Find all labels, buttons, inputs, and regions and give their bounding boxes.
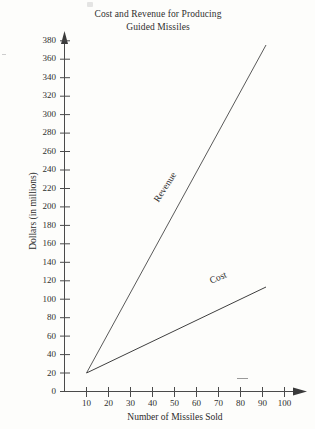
x-tick-label: 20 — [97, 398, 121, 408]
y-tick-label: 80 — [28, 312, 56, 322]
x-tick-label: 40 — [141, 398, 165, 408]
y-tick-label: 20 — [28, 368, 56, 378]
x-axis-title: Number of Missiles Sold — [60, 412, 290, 422]
x-axis-arrowhead — [293, 388, 307, 396]
y-tick-label: 0 — [28, 386, 56, 396]
y-tick-label: 320 — [28, 90, 56, 100]
x-tick-label: 100 — [273, 398, 297, 408]
series-line-cost — [87, 287, 267, 373]
y-axis-arrowhead — [61, 31, 68, 44]
y-tick-label: 380 — [28, 35, 56, 45]
y-tick-label: 100 — [28, 294, 56, 304]
y-tick-label: 300 — [28, 109, 56, 119]
scan-artifact-dash — [237, 378, 248, 379]
x-tick-label: 50 — [163, 398, 187, 408]
x-tick-label: 90 — [251, 398, 275, 408]
y-axis-title: Dollars (in millions) — [28, 131, 38, 291]
plot-area — [0, 0, 315, 429]
series-line-revenue — [87, 45, 267, 373]
y-tick-label: 360 — [28, 53, 56, 63]
x-tick-label: 60 — [185, 398, 209, 408]
scan-artifact-left — [2, 54, 6, 55]
x-tick-label: 70 — [207, 398, 231, 408]
x-tick-label: 80 — [229, 398, 253, 408]
x-tick-label: 10 — [75, 398, 99, 408]
y-tick-label: 40 — [28, 349, 56, 359]
y-tick-label: 60 — [28, 331, 56, 341]
x-tick-label: 30 — [119, 398, 143, 408]
y-tick-label: 340 — [28, 72, 56, 82]
chart-figure: Cost and Revenue for Producing Guided Mi… — [0, 0, 315, 429]
scan-artifact-top — [87, 2, 93, 7]
